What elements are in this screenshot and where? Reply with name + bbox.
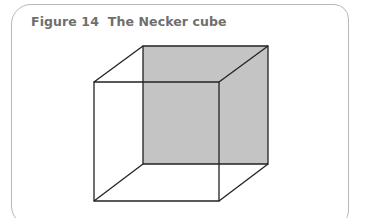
necker-cube-diagram — [0, 0, 366, 218]
back-face-shaded — [143, 46, 268, 164]
edge-bottom-left — [94, 164, 143, 201]
edge-bottom-right — [219, 164, 268, 201]
edge-top-left — [94, 46, 143, 82]
